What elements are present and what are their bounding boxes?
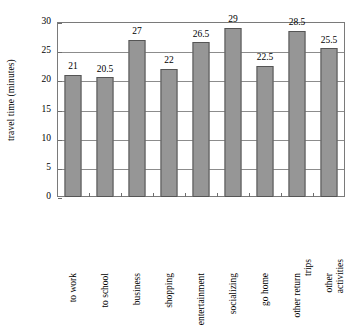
- bar-value-label: 22.5: [257, 53, 274, 63]
- x-axis-label-group: socializing: [217, 199, 249, 279]
- bar-group: 22: [153, 22, 185, 197]
- x-axis-tick-mark: [281, 193, 282, 197]
- x-axis-tick-mark: [121, 193, 122, 197]
- bar-group: 22.5: [249, 22, 281, 197]
- bar-value-label: 22: [164, 56, 174, 66]
- y-axis-tick-label: 5: [46, 163, 51, 173]
- y-axis-tick-label: 25: [42, 46, 52, 56]
- bar-group: 29: [217, 22, 249, 197]
- x-axis-tick-label: socializing: [229, 273, 239, 314]
- bar: [65, 75, 82, 198]
- y-axis-tick-label: 30: [42, 17, 52, 27]
- bar-group: 27: [121, 22, 153, 197]
- x-axis-tick-label: activities: [336, 259, 346, 293]
- y-axis-tick-labels: 302520151050: [28, 22, 55, 197]
- bar-value-label: 27: [132, 27, 142, 37]
- bar: [97, 77, 114, 197]
- y-axis-title-text: travel time (minutes): [6, 59, 16, 141]
- bar: [321, 48, 338, 197]
- bar-group: 28.5: [281, 22, 313, 197]
- x-axis-tick-label: business: [133, 273, 143, 305]
- bar-group: 25.5: [313, 22, 345, 197]
- y-axis-tick-label: 0: [46, 192, 51, 202]
- x-axis-tick-mark: [313, 193, 314, 197]
- bar-value-label: 20.5: [97, 65, 114, 75]
- x-axis-label-group: entertainment: [185, 199, 217, 279]
- bar-value-label: 29: [228, 15, 238, 25]
- y-axis-tick-label: 20: [42, 76, 52, 86]
- x-axis-label-group: shopping: [153, 199, 185, 279]
- x-axis-label-group: to school: [89, 199, 121, 279]
- x-axis-label-group: go home: [249, 199, 281, 279]
- x-axis-label-group: other returntrips: [281, 199, 313, 279]
- bar-group: 20.5: [89, 22, 121, 197]
- bar: [257, 66, 274, 197]
- x-axis-tick-label: go home: [261, 273, 271, 306]
- bars-layer: 2120.5272226.52922.528.525.5: [57, 22, 345, 197]
- bar: [289, 31, 306, 197]
- bar: [225, 28, 242, 197]
- y-axis-title: travel time (minutes): [0, 0, 22, 200]
- x-axis-tick-mark: [217, 193, 218, 197]
- x-axis-label-group: business: [121, 199, 153, 279]
- x-axis-tick-label: other: [325, 273, 335, 293]
- y-axis-tick-label: 15: [42, 105, 52, 115]
- x-axis-tick-label: entertainment: [197, 273, 207, 325]
- bar-value-label: 25.5: [321, 36, 338, 46]
- bar-value-label: 26.5: [193, 30, 210, 40]
- x-axis-tick-label: shopping: [165, 273, 175, 308]
- x-axis-tick-label: other return: [293, 273, 303, 318]
- x-axis-tick-label: to school: [101, 273, 111, 308]
- x-axis-tick-mark: [153, 193, 154, 197]
- x-axis-tick-label: to work: [69, 273, 79, 302]
- x-axis-tick-mark: [89, 193, 90, 197]
- x-axis-tick-labels: to workto schoolbusinessshoppingentertai…: [57, 199, 345, 279]
- bar: [161, 69, 178, 197]
- bar-group: 26.5: [185, 22, 217, 197]
- bar-value-label: 28.5: [289, 18, 306, 28]
- bar: [129, 40, 146, 198]
- bar: [193, 42, 210, 197]
- y-axis-tick-label: 10: [42, 134, 52, 144]
- x-axis-label-group: to work: [57, 199, 89, 279]
- bar-group: 21: [57, 22, 89, 197]
- x-axis-label-group: otheractivities: [313, 199, 345, 279]
- bar-value-label: 21: [68, 62, 78, 72]
- x-axis-tick-mark: [185, 193, 186, 197]
- x-axis-tick-mark: [249, 193, 250, 197]
